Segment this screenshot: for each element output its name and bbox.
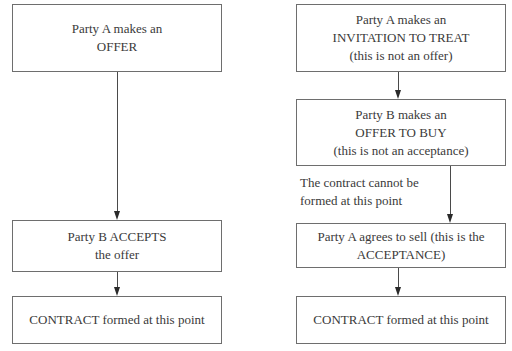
left-offer-line1: Party A makes an	[72, 20, 163, 38]
right-arrow-2-line	[450, 166, 451, 215]
right-acceptance-line2: ACCEPTANCE)	[357, 246, 446, 264]
right-offer-box: Party B makes an OFFER TO BUY (this is n…	[296, 99, 506, 166]
left-offer-line2: OFFER	[97, 38, 137, 56]
left-arrow-1-head-icon	[114, 211, 120, 220]
left-contract-text: CONTRACT formed at this point	[29, 311, 204, 329]
left-arrow-2-head-icon	[114, 287, 120, 296]
right-note-line2: formed at this point	[300, 192, 419, 210]
right-arrow-3-head-icon	[395, 287, 401, 296]
right-arrow-1-line	[398, 72, 399, 91]
left-offer-box: Party A makes an OFFER	[12, 4, 222, 72]
right-arrow-1-head-icon	[395, 90, 401, 99]
right-offer-line2: OFFER TO BUY	[355, 124, 446, 142]
right-arrow-2-head-icon	[447, 214, 453, 223]
left-accept-line1: Party B ACCEPTS	[68, 228, 167, 246]
right-arrow-3-line	[398, 268, 399, 288]
left-arrow-1-line	[117, 72, 118, 212]
left-accept-line2: the offer	[95, 246, 139, 264]
right-invitation-box: Party A makes an INVITATION TO TREAT (th…	[296, 4, 506, 72]
right-contract-box: CONTRACT formed at this point	[296, 296, 506, 344]
right-invitation-line2: INVITATION TO TREAT	[333, 29, 470, 47]
right-invitation-line1: Party A makes an	[356, 11, 447, 29]
right-invitation-line3: (this is not an offer)	[349, 47, 452, 65]
left-accept-box: Party B ACCEPTS the offer	[12, 220, 222, 272]
right-acceptance-box: Party A agrees to sell (this is the ACCE…	[296, 223, 506, 268]
right-acceptance-line1: Party A agrees to sell (this is the	[317, 228, 484, 246]
right-note-line1: The contract cannot be	[300, 174, 419, 192]
right-offer-line1: Party B makes an	[355, 106, 446, 124]
right-note: The contract cannot be formed at this po…	[300, 174, 419, 210]
right-contract-text: CONTRACT formed at this point	[313, 311, 488, 329]
left-contract-box: CONTRACT formed at this point	[12, 296, 222, 344]
right-offer-line3: (this is not an acceptance)	[334, 142, 469, 160]
left-arrow-2-line	[117, 272, 118, 288]
